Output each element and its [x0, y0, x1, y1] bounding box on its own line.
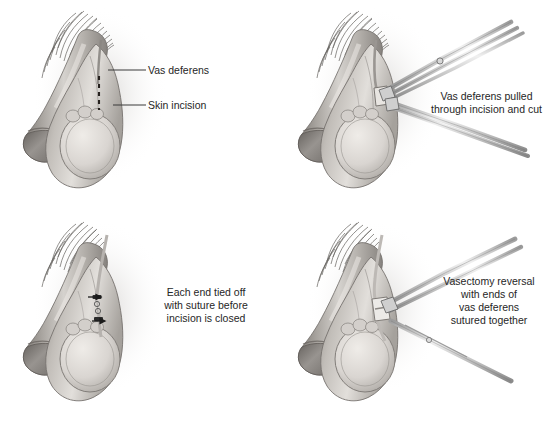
caption-step-3: Each end tied off with suture before inc… [141, 286, 271, 325]
caption-step-2: Vas deferens pulled through incision and… [419, 90, 554, 116]
testis [335, 113, 395, 179]
forceps-hinge-upper [437, 58, 443, 64]
panel-top-left: Vas deferens Skin incision [0, 0, 279, 213]
testis [60, 113, 120, 179]
anatomy-illustration-step-1 [0, 0, 279, 213]
testis [335, 326, 395, 392]
panel-bottom-left: Each end tied off with suture before inc… [0, 213, 279, 426]
label-skin-incision: Skin incision [148, 99, 206, 112]
label-vas-deferens: Vas deferens [148, 64, 209, 77]
testis [60, 326, 120, 392]
forceps-jaw-lower [385, 97, 399, 111]
panel-bottom-right: Vasectomy reversal with ends of vas defe… [279, 213, 558, 426]
panel-top-right: Vas deferens pulled through incision and… [279, 0, 558, 213]
needle-hinge [426, 337, 431, 342]
vasectomy-illustration-figure: Vas deferens Skin incision [0, 0, 558, 426]
caption-step-4: Vasectomy reversal with ends of vas defe… [424, 275, 554, 327]
